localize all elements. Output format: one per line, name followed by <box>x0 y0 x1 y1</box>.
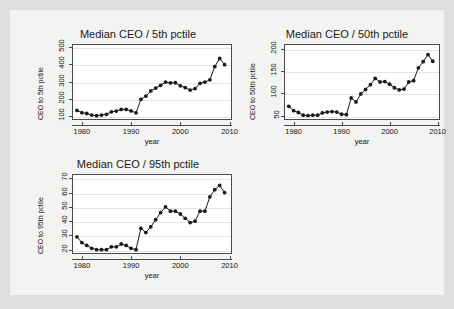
data-point <box>223 63 227 67</box>
series-line <box>77 185 225 249</box>
data-point <box>198 81 202 85</box>
data-point <box>139 97 143 101</box>
data-point <box>402 87 406 91</box>
data-point <box>149 225 153 229</box>
data-point <box>340 112 344 116</box>
data-point <box>85 112 89 116</box>
data-point <box>124 244 128 248</box>
data-point <box>119 242 123 246</box>
data-point <box>144 231 148 235</box>
data-point <box>109 110 113 114</box>
data-point <box>105 112 109 116</box>
data-point <box>397 88 401 92</box>
plot-wrap: 50100150200CEO to 50th pctile19801990200… <box>240 28 446 148</box>
figure-panel: Median CEO / 5th pctile 100200300400500C… <box>10 10 444 295</box>
data-point <box>306 114 310 118</box>
data-point <box>105 248 109 252</box>
data-point <box>80 241 84 245</box>
data-point <box>301 113 305 117</box>
data-point <box>193 87 197 91</box>
data-point <box>369 83 373 87</box>
data-point <box>100 248 104 252</box>
data-point <box>173 209 177 213</box>
data-point <box>85 244 89 248</box>
data-point <box>159 83 163 87</box>
data-point <box>144 94 148 98</box>
data-point <box>169 81 173 85</box>
data-point <box>354 100 358 104</box>
data-point <box>164 205 168 209</box>
data-point <box>412 79 416 83</box>
data-point <box>169 209 173 213</box>
data-point <box>178 84 182 88</box>
data-point <box>223 191 227 195</box>
data-point <box>208 78 212 82</box>
data-series <box>240 28 446 148</box>
data-point <box>129 109 133 113</box>
data-point <box>316 113 320 117</box>
data-point <box>330 110 334 114</box>
data-point <box>75 109 79 113</box>
data-point <box>218 184 222 188</box>
chart-panel-median-ceo-50th: Median CEO / 50th pctile 50100150200CEO … <box>240 28 446 148</box>
data-point <box>154 218 158 222</box>
data-point <box>297 111 301 115</box>
data-point <box>95 114 99 118</box>
data-point <box>124 108 128 112</box>
data-point <box>417 66 421 70</box>
data-point <box>325 110 329 114</box>
data-point <box>188 221 192 225</box>
data-point <box>80 111 84 115</box>
data-point <box>431 59 435 63</box>
data-point <box>109 245 113 249</box>
data-point <box>114 109 118 113</box>
plot-wrap: 100200300400500CEO to 5th pctile19801990… <box>28 28 238 148</box>
data-point <box>164 80 168 84</box>
data-point <box>378 80 382 84</box>
data-point <box>287 104 291 108</box>
plot-wrap: 203040506070CEO to 95th pctile1980199020… <box>28 158 238 282</box>
data-point <box>213 188 217 192</box>
data-point <box>139 226 143 230</box>
data-point <box>393 86 397 90</box>
data-point <box>208 195 212 199</box>
data-series <box>28 28 238 148</box>
data-point <box>321 111 325 115</box>
data-point <box>218 57 222 61</box>
data-point <box>100 113 104 117</box>
data-point <box>373 77 377 81</box>
data-point <box>193 219 197 223</box>
data-point <box>292 109 296 113</box>
data-point <box>311 113 315 117</box>
data-point <box>114 245 118 249</box>
data-point <box>188 88 192 92</box>
data-point <box>364 88 368 92</box>
data-point <box>159 211 163 215</box>
data-point <box>426 53 430 57</box>
data-point <box>345 113 349 117</box>
data-point <box>134 111 138 115</box>
data-point <box>388 82 392 86</box>
data-point <box>421 60 425 64</box>
data-point <box>335 110 339 114</box>
data-point <box>213 65 217 69</box>
chart-panel-median-ceo-95th: Median CEO / 95th pctile 203040506070CEO… <box>28 158 238 282</box>
data-point <box>203 80 207 84</box>
data-point <box>178 212 182 216</box>
series-line <box>289 55 433 116</box>
data-point <box>75 235 79 239</box>
data-point <box>90 246 94 250</box>
data-point <box>129 246 133 250</box>
data-point <box>149 89 153 93</box>
data-point <box>183 86 187 90</box>
data-point <box>359 92 363 96</box>
data-point <box>203 209 207 213</box>
data-point <box>349 96 353 100</box>
data-point <box>154 86 158 90</box>
chart-panel-median-ceo-5th: Median CEO / 5th pctile 100200300400500C… <box>28 28 238 148</box>
series-line <box>77 59 225 116</box>
data-point <box>134 248 138 252</box>
data-point <box>119 108 123 112</box>
data-series <box>28 158 238 282</box>
data-point <box>183 216 187 220</box>
